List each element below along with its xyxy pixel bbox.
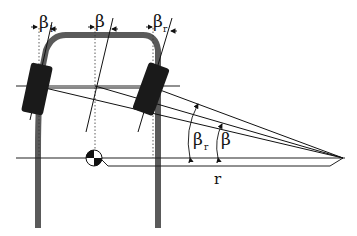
beta-r-angle-label: β [193, 129, 203, 149]
reference-lines [39, 28, 153, 158]
steering-geometry-diagram: β l β β r β r β r [0, 0, 357, 236]
beta-right-subscript: r [163, 24, 168, 34]
beta-right-label: β [153, 11, 163, 31]
radius-label: r [214, 170, 222, 188]
center-of-gravity-icon [86, 150, 102, 166]
beta-r-angle-subscript: r [204, 142, 209, 152]
beta-left-label: β [39, 12, 49, 32]
beta-angle-label: β [221, 129, 231, 149]
left-front-wheel [21, 62, 53, 115]
beta-left-subscript: l [50, 24, 53, 34]
beta-center-label: β [95, 11, 105, 31]
vehicle-frame [38, 35, 158, 228]
radius-dimension-line [100, 158, 343, 166]
